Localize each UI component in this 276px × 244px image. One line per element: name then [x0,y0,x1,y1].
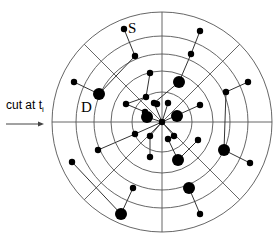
source-label: S [128,20,136,36]
arrow-right-icon [38,122,44,127]
node-n31 [130,185,136,191]
node-n4 [143,94,149,100]
node-n17 [141,111,153,123]
node-n8 [197,28,203,34]
node-n32 [115,208,127,220]
cut-label-subscript: i [42,105,44,114]
node-n10 [173,76,185,88]
node-n12 [165,100,171,106]
node-n15 [223,89,229,95]
node-n28 [247,160,253,166]
node-n9 [188,51,194,57]
node-n23 [171,133,177,139]
node-center [159,119,165,125]
edge [226,82,248,92]
node-n29 [183,182,195,194]
edge [98,134,135,150]
edge [146,73,150,97]
edge [224,92,226,150]
node-n16 [245,79,251,85]
node-n3 [123,101,129,107]
edge [99,56,135,94]
node-n24 [165,136,171,142]
radial-network-diagram: S D cut at ti [0,0,276,244]
cut-annotation: cut at ti [6,98,44,127]
cut-label: cut at ti [6,98,44,114]
node-n25 [172,154,184,166]
node-n21 [147,133,153,139]
node-n18 [132,131,138,137]
node-n14 [197,102,203,108]
node-n20 [69,159,75,165]
edge [191,31,200,54]
node-n27 [218,144,230,156]
cut-label-text: cut at t [6,98,43,112]
node-n7 [147,70,153,76]
edge [135,122,162,134]
node-n2 [71,79,77,85]
destination-label: D [81,99,92,115]
spoke-135 [84,44,162,122]
node-n1 [132,53,138,59]
node-n30 [197,211,203,217]
node-n26 [195,137,201,143]
node-n19 [95,147,101,153]
node-n11 [151,100,157,106]
node-S [121,26,127,32]
node-D [93,88,105,100]
node-n13 [171,110,183,122]
node-n22 [147,154,153,160]
network-nodes [69,26,253,220]
